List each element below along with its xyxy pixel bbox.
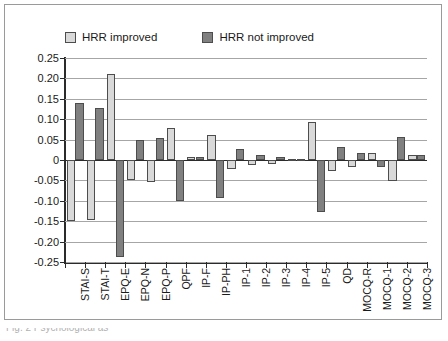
x-axis-labels: STAI-SSTAI-TEPQ-EEPQ-NEPQ-PQPFIP-FIP-PHI…	[65, 268, 427, 320]
x-axis-tick-label: IP-4	[300, 268, 312, 287]
bar	[156, 138, 164, 160]
x-axis-tick-label: EPQ-N	[139, 268, 151, 301]
bar	[297, 159, 305, 161]
y-axis-labels: 0.250.200.150.100.050-0.05-0.10-0.15-0.2…	[13, 58, 59, 262]
legend-item-hrr-not-improved: HRR not improved	[202, 32, 314, 43]
bar-group	[407, 58, 427, 262]
x-axis-tick-label: IP-2	[260, 268, 272, 287]
y-axis-tick-label: -0.05	[13, 175, 59, 185]
x-axis-tick-label: QPF	[180, 268, 192, 290]
bar	[107, 74, 115, 160]
bar-group	[306, 58, 326, 262]
bar	[75, 103, 83, 160]
bar	[268, 160, 276, 164]
bar	[417, 155, 425, 160]
bar-group	[105, 58, 125, 262]
caption-fragment: Fig. 2 Psychological as	[6, 328, 442, 340]
y-axis-tick-label: 0	[13, 155, 59, 165]
bar-group	[246, 58, 266, 262]
figure-frame: HRR improved HRR not improved 0.250.200.…	[4, 4, 442, 320]
y-axis-tick-label: -0.25	[13, 257, 59, 267]
x-axis-tick-label: MOCQ-R	[361, 268, 373, 312]
figure-page: HRR improved HRR not improved 0.250.200.…	[0, 0, 448, 341]
y-axis-tick-label: 0.25	[13, 53, 59, 63]
bar	[116, 160, 124, 257]
bar	[196, 157, 204, 160]
bar-group	[326, 58, 346, 262]
y-axis-tick-label: -0.15	[13, 216, 59, 226]
bar	[236, 149, 244, 160]
y-axis-tick-label: -0.20	[13, 237, 59, 247]
bar-group	[286, 58, 306, 262]
bar-group	[125, 58, 145, 262]
bar-group	[206, 58, 226, 262]
legend-swatch-icon	[65, 32, 76, 43]
bar	[227, 160, 235, 169]
bar	[127, 160, 135, 180]
bar	[176, 160, 184, 201]
bar-group	[166, 58, 186, 262]
bar	[368, 153, 376, 160]
x-axis-tick-label: MOCQ-1	[381, 268, 393, 310]
bar	[87, 160, 95, 220]
bar	[207, 135, 215, 160]
x-axis-tick-label: STAI-S	[79, 268, 91, 301]
y-axis-tick-label: -0.10	[13, 196, 59, 206]
caption-text: Fig. 2 Psychological as	[6, 328, 442, 333]
bar	[147, 160, 155, 182]
bar	[308, 122, 316, 160]
bar-group	[186, 58, 206, 262]
bar	[317, 160, 325, 212]
x-axis-tick-label: IP-F	[200, 268, 212, 288]
bar	[167, 128, 175, 160]
bar	[288, 159, 296, 161]
bar-group	[347, 58, 367, 262]
x-axis-tick-label: IP-1	[240, 268, 252, 287]
bar	[388, 160, 396, 181]
bar	[348, 160, 356, 167]
y-axis-tick-label: 0.15	[13, 94, 59, 104]
x-axis-tick-label: STAI-T	[99, 268, 111, 300]
y-axis-tick-label: 0.10	[13, 114, 59, 124]
x-axis-tick-label: MOCQ-3	[421, 268, 433, 310]
bar	[95, 108, 103, 160]
y-axis-tick-label: 0.05	[13, 135, 59, 145]
bar	[328, 160, 336, 171]
bar	[337, 147, 345, 160]
bar	[256, 155, 264, 160]
bar	[377, 160, 385, 167]
bar	[408, 155, 416, 160]
x-axis-tick-label: IP-PH	[220, 268, 232, 296]
legend-swatch-icon	[202, 32, 213, 43]
bar	[276, 157, 284, 160]
bar-group	[226, 58, 246, 262]
y-axis-tick-label: 0.20	[13, 73, 59, 83]
legend-item-hrr-improved: HRR improved	[65, 32, 157, 43]
bar-group	[85, 58, 105, 262]
bar	[187, 157, 195, 160]
bar	[136, 140, 144, 160]
bar-group	[387, 58, 407, 262]
bar	[67, 160, 75, 221]
x-axis-tick-label: QD	[341, 268, 353, 284]
bar	[357, 153, 365, 160]
x-axis-tick-label: EPQ-P	[160, 268, 172, 301]
plot-area	[65, 58, 427, 262]
x-axis-tick-label: EPQ-E	[119, 268, 131, 301]
legend-label: HRR not improved	[219, 32, 314, 43]
bar	[216, 160, 224, 198]
bar-series-container	[65, 58, 427, 262]
bar	[248, 160, 256, 165]
chart-legend: HRR improved HRR not improved	[65, 29, 314, 45]
x-axis-tick-label: IP-3	[280, 268, 292, 287]
x-axis-tick-label: MOCQ-2	[401, 268, 413, 310]
bar-group	[266, 58, 286, 262]
x-axis-tick-label: IP-5	[320, 268, 332, 287]
legend-label: HRR improved	[82, 32, 157, 43]
bar-group	[367, 58, 387, 262]
bar-group	[145, 58, 165, 262]
bar-group	[65, 58, 85, 262]
bar	[397, 137, 405, 160]
